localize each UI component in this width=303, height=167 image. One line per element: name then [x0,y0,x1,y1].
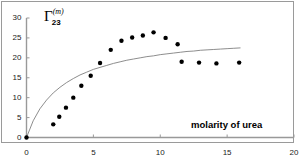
data-point [64,105,68,109]
data-point [57,115,61,119]
data-point [89,74,93,78]
y-tick-label: 15 [0,73,22,82]
y-tick-label: 25 [0,33,22,42]
x-tick-label: 20 [279,148,303,157]
x-axis-label: molarity of urea [191,119,262,130]
x-tick-label: 15 [212,148,242,157]
chart-figure: Γ(m)23 molarity of urea 0510152025300510… [0,0,303,167]
data-point [163,36,167,40]
data-point [119,39,123,43]
data-point [51,122,55,126]
y-axis-label: Γ(m)23 [44,9,73,24]
y-axis-label-subscript: 23 [52,18,61,27]
data-point [98,61,102,65]
data-point [175,42,179,46]
data-point [237,60,241,64]
x-tick-label: 0 [12,148,42,157]
data-point [151,30,155,34]
y-tick-label: 5 [0,113,22,122]
data-point [109,48,113,52]
chart-plot-area [0,0,303,167]
data-point [24,135,28,139]
y-tick-label: 0 [0,133,22,142]
data-point [141,33,145,37]
data-point [71,95,75,99]
x-tick-label: 5 [78,148,108,157]
data-point [179,60,183,64]
y-axis-label-superscript: (m) [53,7,64,16]
y-tick-label: 30 [0,13,22,22]
y-tick-label: 10 [0,93,22,102]
data-point [214,61,218,65]
data-point [197,60,201,64]
data-point [130,35,134,39]
data-point [79,84,83,88]
y-tick-label: 20 [0,53,22,62]
x-tick-label: 10 [145,148,175,157]
